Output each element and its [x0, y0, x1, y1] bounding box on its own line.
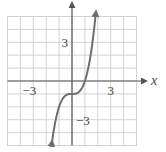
x-tick-label: −3 — [22, 83, 36, 98]
cubic-function-graph: −333−3 x — [0, 0, 166, 152]
x-axis-label: x — [150, 73, 158, 88]
y-tick-label: −3 — [76, 113, 90, 128]
y-tick-label: 3 — [62, 35, 69, 50]
x-tick-label: 3 — [107, 83, 114, 98]
